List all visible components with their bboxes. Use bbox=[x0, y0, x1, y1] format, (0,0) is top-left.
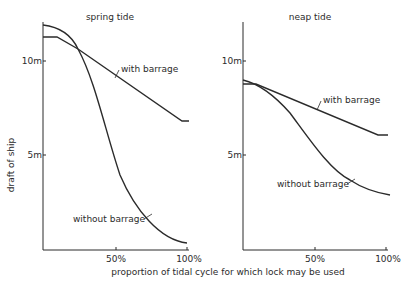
spring-ylabel-10m: 10m bbox=[22, 56, 42, 66]
neap-ylabel-5m: 5m bbox=[228, 150, 243, 160]
spring-ylabel-5m: 5m bbox=[28, 150, 43, 160]
spring-xlabel-50: 50% bbox=[106, 254, 126, 264]
neap-ylabel-10m: 10m bbox=[222, 56, 242, 66]
neap-with-barrage-label: with barrage bbox=[323, 95, 381, 105]
neap-xlabel-100: 100% bbox=[375, 254, 401, 264]
spring-xlabel-100: 100% bbox=[176, 254, 202, 264]
neap-tide-title: neap tide bbox=[289, 12, 332, 22]
neap-with-barrage-line bbox=[243, 84, 388, 135]
spring-with-barrage-line bbox=[43, 37, 189, 121]
neap-tide-panel: neap tide 10m 5m 50% 100% with barrage w… bbox=[222, 12, 402, 264]
spring-tide-panel: spring tide 10m 5m 50% 100% with barrage… bbox=[22, 12, 203, 264]
y-axis-label: draft of ship bbox=[6, 137, 16, 192]
neap-with-leader bbox=[317, 101, 321, 110]
spring-without-barrage-line bbox=[43, 25, 187, 243]
x-axis-label: proportion of tidal cycle for which lock… bbox=[111, 267, 345, 277]
spring-with-barrage-label: with barrage bbox=[121, 64, 179, 74]
chart-figure: spring tide 10m 5m 50% 100% with barrage… bbox=[0, 0, 411, 289]
spring-tide-title: spring tide bbox=[86, 12, 135, 22]
neap-xlabel-50: 50% bbox=[305, 254, 325, 264]
spring-without-barrage-label: without barrage bbox=[73, 214, 145, 224]
neap-without-barrage-label: without barrage bbox=[277, 179, 349, 189]
